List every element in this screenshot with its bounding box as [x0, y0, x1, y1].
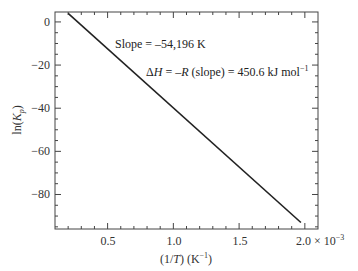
y-tick-label: −20 [31, 58, 50, 72]
y-axis-label: ln(Kp) [10, 105, 26, 134]
y-tick-label: −40 [31, 101, 50, 115]
y-tick-label: 0 [44, 15, 50, 29]
y-axis-ticks [55, 22, 318, 227]
x-tick-label: 1.0 [167, 234, 182, 248]
x-tick-label: 0.5 [101, 234, 116, 248]
x-tick-label: 1.5 [233, 234, 248, 248]
enthalpy-annotation: ΔH = –R (slope) = 450.6 kJ mol−1 [146, 64, 308, 79]
x-tick-label: 2.0 × 10−3 [296, 233, 344, 248]
slope-annotation: Slope = –54,196 K [115, 37, 206, 51]
chart: 0 −20 −40 −60 −80 0.5 1.0 1.5 2.0 × 10−3… [0, 0, 358, 271]
x-axis-label: (1/T) (K−1) [160, 251, 212, 266]
y-tick-label: −80 [31, 187, 50, 201]
y-tick-label: −60 [31, 144, 50, 158]
